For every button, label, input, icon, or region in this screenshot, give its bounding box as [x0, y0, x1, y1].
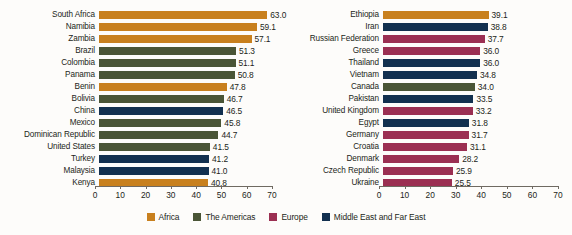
category-label: Brazil — [0, 45, 99, 57]
bar-value-label: 36.0 — [483, 57, 499, 69]
bar-row: Thailand36.0 — [286, 57, 572, 69]
legend-label: Europe — [281, 212, 307, 222]
legend-item: Africa — [147, 212, 180, 222]
category-label: Colombia — [0, 57, 99, 69]
bar-row: Pakistan33.5 — [286, 93, 572, 105]
axis-tick — [430, 186, 431, 189]
left-panel-x-axis: 010203040506070 — [95, 186, 272, 206]
axis-line — [95, 186, 272, 187]
bar-value-label: 44.7 — [221, 129, 237, 141]
bar-value-label: 31.7 — [472, 129, 488, 141]
bar-row: Vietnam34.8 — [286, 69, 572, 81]
bar-value-label: 41.0 — [212, 165, 228, 177]
axis-tick-label: 60 — [242, 190, 251, 201]
bar-track: 41.2 — [99, 153, 286, 165]
bar-track: 31.8 — [383, 117, 572, 129]
category-label: Russian Federation — [286, 33, 383, 45]
bar-value-label: 57.1 — [255, 33, 271, 45]
bar — [99, 155, 209, 163]
axis-tick — [146, 186, 147, 189]
axis-tick — [120, 186, 121, 189]
bar-track: 31.7 — [383, 129, 572, 141]
axis-tick — [95, 186, 96, 189]
category-label: Vietnam — [286, 69, 383, 81]
bar-row: Germany31.7 — [286, 129, 572, 141]
bar-row: Malaysia41.0 — [0, 165, 286, 177]
bar-track: 46.5 — [99, 105, 286, 117]
bar-track: 63.0 — [99, 9, 286, 21]
axis-tick — [456, 186, 457, 189]
axis-tick — [532, 186, 533, 189]
category-label: Egypt — [286, 117, 383, 129]
category-label: Czech Republic — [286, 165, 383, 177]
axis-tick-label: 40 — [477, 190, 486, 201]
bar-track: 44.7 — [99, 129, 286, 141]
bar — [383, 71, 477, 79]
axis-tick-label: 20 — [141, 190, 150, 201]
category-label: Ukraine — [286, 177, 383, 189]
left-panel-rows: South Africa63.0Namibia59.1Zambia57.1Bra… — [0, 9, 286, 189]
category-label: Iran — [286, 21, 383, 33]
bar-track: 46.7 — [99, 93, 286, 105]
bar-row: Ethiopia39.1 — [286, 9, 572, 21]
axis-tick-label: 30 — [451, 190, 460, 201]
bar-row: Bolivia46.7 — [0, 93, 286, 105]
category-label: Namibia — [0, 21, 99, 33]
bar — [383, 11, 489, 19]
bar-value-label: 50.8 — [238, 69, 254, 81]
legend-swatch-icon — [322, 213, 330, 221]
category-label: Canada — [286, 81, 383, 93]
bar-value-label: 33.5 — [476, 93, 492, 105]
category-label: Greece — [286, 45, 383, 57]
axis-tick — [379, 186, 380, 189]
bar-value-label: 46.7 — [227, 93, 243, 105]
category-label: Ethiopia — [286, 9, 383, 21]
bar-track: 38.8 — [383, 21, 572, 33]
category-label: Benin — [0, 81, 99, 93]
bar-value-label: 51.1 — [239, 57, 255, 69]
bar — [99, 131, 218, 139]
bar-row: Panama50.8 — [0, 69, 286, 81]
left-panel: South Africa63.0Namibia59.1Zambia57.1Bra… — [0, 0, 286, 205]
bar — [99, 143, 210, 151]
bar-row: Mexico45.8 — [0, 117, 286, 129]
bar-value-label: 47.8 — [230, 81, 246, 93]
bar-value-label: 28.2 — [462, 153, 478, 165]
bar-row: Namibia59.1 — [0, 21, 286, 33]
bar — [383, 83, 475, 91]
category-label: Zambia — [0, 33, 99, 45]
bar-value-label: 46.5 — [226, 105, 242, 117]
bar-value-label: 45.8 — [224, 117, 240, 129]
category-label: Denmark — [286, 153, 383, 165]
legend-item: Europe — [269, 212, 307, 222]
chart-panels: South Africa63.0Namibia59.1Zambia57.1Bra… — [0, 0, 572, 205]
bar-track: 36.0 — [383, 45, 572, 57]
axis-tick — [507, 186, 508, 189]
category-label: Panama — [0, 69, 99, 81]
axis-tick-label: 50 — [217, 190, 226, 201]
axis-tick — [481, 186, 482, 189]
bar — [99, 59, 236, 67]
axis-tick — [221, 186, 222, 189]
bar-row: Russian Federation37.7 — [286, 33, 572, 45]
legend-label: Middle East and Far East — [334, 212, 426, 222]
bar-row: Turkey41.2 — [0, 153, 286, 165]
category-label: Bolivia — [0, 93, 99, 105]
axis-tick-label: 20 — [425, 190, 434, 201]
bar-value-label: 36.0 — [483, 45, 499, 57]
bar-track: 31.1 — [383, 141, 572, 153]
bar-row: Iran38.8 — [286, 21, 572, 33]
right-panel-rows: Ethiopia39.1Iran38.8Russian Federation37… — [286, 9, 572, 189]
legend-swatch-icon — [147, 213, 155, 221]
axis-tick — [247, 186, 248, 189]
axis-tick-label: 70 — [267, 190, 276, 201]
bar — [383, 143, 467, 151]
category-label: China — [0, 105, 99, 117]
legend-swatch-icon — [269, 213, 277, 221]
category-label: United States — [0, 141, 99, 153]
category-label: Kenya — [0, 177, 99, 189]
bar — [99, 35, 252, 43]
axis-tick — [558, 186, 559, 189]
bar — [99, 83, 227, 91]
bar — [383, 35, 485, 43]
